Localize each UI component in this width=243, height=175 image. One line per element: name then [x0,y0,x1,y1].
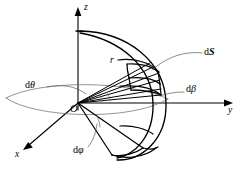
x-axis-label: x [15,150,19,160]
d-phi-symbol: φ [78,144,84,155]
d-theta-label: dθ [25,80,35,90]
z-axis-label: z [84,3,88,13]
label-leader-lines [47,53,202,147]
d-S-label: dS [204,47,215,57]
radius-label: r [110,56,114,66]
d-S-symbol: S [209,46,215,57]
z-axis-arrowhead [75,7,82,16]
spherical-coordinate-diagram: z y x O r dθ dφ dβ dS [0,0,243,175]
leader-d-beta [160,92,184,96]
solid-angle-rays [78,63,161,103]
leader-d-S [152,53,202,70]
y-axis-label: y [228,106,232,116]
origin-label: O [70,104,78,115]
leader-d-phi [88,124,97,147]
azimuthal-wedge [78,103,158,157]
leader-d-theta [47,86,86,94]
diagram-canvas [0,0,243,175]
d-phi-label: dφ [73,145,84,155]
d-beta-label: dβ [186,84,196,94]
axis-z [75,7,82,110]
d-beta-symbol: β [191,83,196,94]
d-theta-symbol: θ [30,79,35,90]
